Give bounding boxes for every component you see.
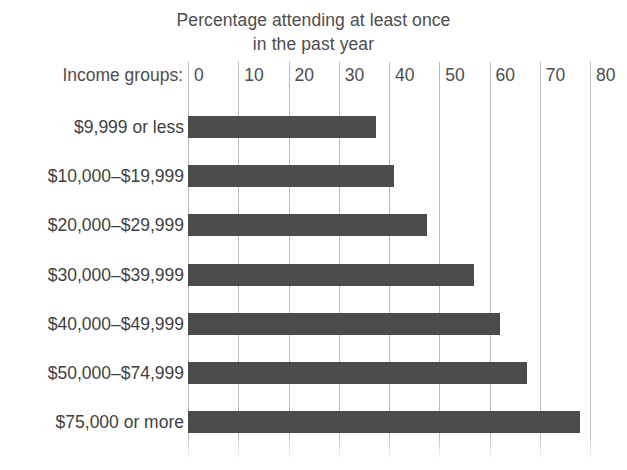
chart-title: Percentage attending at least once in th… <box>0 8 627 56</box>
chart-title-line-2: in the past year <box>0 32 627 56</box>
category-label: $50,000–$74,999 <box>48 362 184 384</box>
bar-chart: Percentage attending at least once in th… <box>0 0 627 470</box>
gridline-40 <box>389 62 390 460</box>
category-label: $10,000–$19,999 <box>48 165 184 187</box>
gridline-50 <box>439 62 440 460</box>
category-label: $75,000 or more <box>56 411 184 433</box>
gridline-70 <box>540 62 541 460</box>
bar <box>188 116 376 138</box>
gridline-60 <box>490 62 491 460</box>
bar <box>188 362 527 384</box>
category-label: $9,999 or less <box>74 116 184 138</box>
bar <box>188 165 394 187</box>
category-label: $30,000–$39,999 <box>48 264 184 286</box>
chart-title-line-1: Percentage attending at least once <box>0 8 627 32</box>
bar <box>188 264 474 286</box>
x-tick-label-80: 80 <box>596 62 615 88</box>
plot-area <box>188 62 590 460</box>
bar <box>188 411 580 433</box>
category-label: $40,000–$49,999 <box>48 313 184 335</box>
gridline-80 <box>590 62 591 460</box>
category-label: $20,000–$29,999 <box>48 214 184 236</box>
bar <box>188 313 500 335</box>
bar <box>188 214 427 236</box>
axis-caption: Income groups: <box>62 62 183 88</box>
